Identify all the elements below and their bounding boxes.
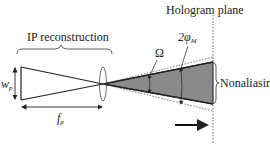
- diagram-canvas: IP reconstruction Hologram plane Ω 2φM N…: [0, 0, 270, 159]
- ip-reconstruction-label: IP reconstruction: [27, 31, 109, 43]
- hologram-plane-label: Hologram plane: [166, 4, 244, 16]
- ip-reconstruction-brace: [17, 45, 112, 54]
- wp-label: wp: [1, 78, 13, 92]
- nonaliasing-region: [103, 62, 213, 104]
- fp-label: fp: [57, 112, 64, 126]
- nonaliasing-label: Nonaliasing: [220, 77, 270, 89]
- omega-label: Ω: [155, 47, 164, 59]
- two-phi-label: 2φM: [178, 31, 196, 45]
